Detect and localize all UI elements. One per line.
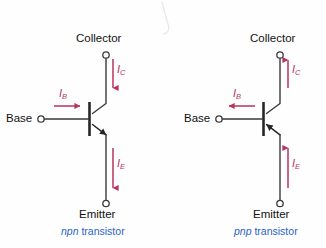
pnp-emitter-label: Emitter	[253, 209, 289, 221]
npn-ic-subscript: C	[120, 68, 125, 77]
pnp-ic-subscript: C	[295, 68, 300, 77]
npn-caption: npn transistor	[61, 226, 125, 237]
npn-emitter-label: Emitter	[79, 209, 115, 221]
npn-emitter-node	[103, 200, 109, 206]
pnp-base-node	[216, 116, 222, 122]
pnp-base-current-label: IB	[233, 88, 241, 99]
pnp-base-label: Base	[184, 113, 210, 125]
npn-caption-emphasis: npn	[61, 225, 79, 237]
pnp-collector-current-label: IC	[292, 64, 300, 75]
pnp-caption-emphasis: pnp	[234, 225, 252, 237]
npn-emitter-current-label: IE	[117, 158, 125, 169]
pnp-collector-label: Collector	[250, 33, 295, 45]
pnp-caption: pnp transistor	[234, 226, 298, 237]
pnp-collector-lead	[267, 59, 281, 114]
npn-emitter-arrow	[93, 125, 107, 135]
page-curve-artifact	[162, 2, 169, 34]
npn-transistor-symbol	[38, 52, 113, 207]
pnp-collector-node	[277, 52, 283, 58]
pnp-caption-rest: transistor	[252, 225, 298, 237]
pnp-ie-subscript: E	[295, 162, 300, 171]
pnp-emitter-current-label: IE	[292, 158, 300, 169]
npn-collector-label: Collector	[76, 33, 121, 45]
pnp-emitter-node	[277, 200, 283, 206]
npn-ib-subscript: B	[62, 92, 67, 101]
pnp-ib-subscript: B	[236, 92, 241, 101]
npn-ie-subscript: E	[120, 162, 125, 171]
npn-base-node	[38, 116, 44, 122]
npn-base-label: Base	[6, 113, 32, 125]
npn-base-current-label: IB	[59, 88, 67, 99]
npn-collector-lead	[93, 59, 107, 114]
pnp-transistor-symbol	[216, 52, 288, 207]
npn-collector-current-label: IC	[117, 64, 125, 75]
pnp-emitter-arrow	[267, 125, 280, 135]
npn-collector-node	[103, 52, 109, 58]
npn-caption-rest: transistor	[79, 225, 125, 237]
